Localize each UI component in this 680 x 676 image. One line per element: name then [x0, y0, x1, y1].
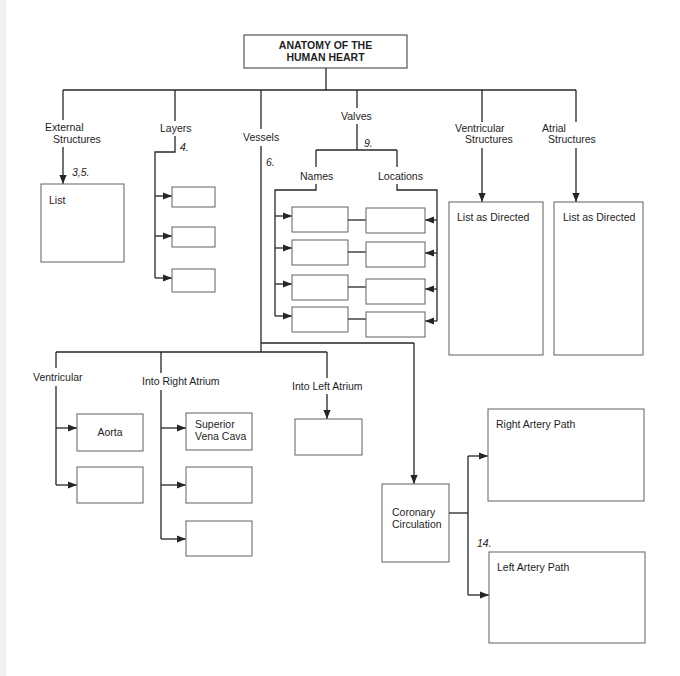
atrial-structures-box-label: List as Directed — [563, 211, 636, 223]
title-node: ANATOMY OF THE HUMAN HEART — [244, 35, 407, 68]
valve-location-box-1[interactable] — [366, 208, 425, 233]
valve-location-box-4[interactable] — [366, 312, 425, 337]
into-left-atrium-label: Into Left Atrium — [292, 380, 363, 392]
valves-label: Valves — [341, 110, 372, 122]
step-number: 9. — [364, 137, 373, 149]
atrial-structures-label-2: Structures — [548, 133, 596, 145]
right-atrium-vessel-box-3[interactable] — [186, 521, 252, 556]
layers-label: Layers — [160, 122, 192, 134]
ventricular-structures-box-label: List as Directed — [457, 211, 530, 223]
title-line-2: HUMAN HEART — [286, 51, 365, 63]
into-right-atrium-label: Into Right Atrium — [142, 375, 220, 387]
vessel-group-into-left-atrium: Into Left Atrium — [292, 352, 363, 455]
aorta-label: Aorta — [97, 426, 122, 438]
valve-name-box-1[interactable] — [292, 207, 348, 232]
step-number: 14. — [477, 537, 492, 549]
title-line-1: ANATOMY OF THE — [279, 39, 372, 51]
external-list-label: List — [49, 194, 65, 206]
step-number: 4. — [180, 141, 189, 153]
left-atrium-vessel-box[interactable] — [295, 419, 362, 455]
vessel-group-ventricular: Ventricular Aorta — [33, 352, 143, 503]
ventricular-structures-box[interactable] — [449, 202, 543, 355]
branch-external-structures: External Structures 3,5. List — [41, 90, 124, 262]
valve-name-box-2[interactable] — [292, 240, 348, 265]
vessels-label: Vessels — [243, 131, 279, 143]
external-label-1: External — [45, 121, 84, 133]
right-artery-path-label: Right Artery Path — [496, 418, 576, 430]
valve-names-label: Names — [300, 170, 333, 182]
ventricular-structures-label-2: Structures — [465, 133, 513, 145]
valve-location-box-3[interactable] — [366, 279, 425, 304]
layer-box-3[interactable] — [172, 269, 215, 292]
valve-locations-label: Locations — [378, 170, 423, 182]
valve-name-box-3[interactable] — [292, 275, 348, 300]
superior-vena-cava-label-1: Superior — [195, 418, 235, 430]
vessel-group-into-right-atrium: Into Right Atrium Superior Vena Cava — [142, 352, 252, 556]
branch-vessels: Vessels 6. — [243, 90, 279, 352]
step-number: 3,5. — [72, 166, 90, 178]
ventricular-label: Ventricular — [33, 371, 83, 383]
valve-name-box-4[interactable] — [292, 307, 348, 332]
left-artery-path-label: Left Artery Path — [497, 561, 570, 573]
right-atrium-vessel-box-2[interactable] — [186, 467, 252, 503]
branch-atrial-structures: Atrial Structures List as Directed — [542, 90, 643, 355]
valve-location-box-2[interactable] — [366, 242, 425, 267]
vessel-group-coronary: Coronary Circulation 14. Right Artery Pa… — [382, 343, 645, 643]
branch-layers: Layers 4. — [155, 90, 215, 292]
atrial-structures-box[interactable] — [554, 202, 643, 355]
superior-vena-cava-label-2: Vena Cava — [195, 430, 247, 442]
heart-anatomy-diagram: ANATOMY OF THE HUMAN HEART External Stru… — [0, 0, 680, 676]
coronary-label-2: Circulation — [392, 518, 442, 530]
branch-valves: Valves 9. Names Locations — [275, 90, 437, 337]
coronary-label-1: Coronary — [392, 506, 436, 518]
layer-box-2[interactable] — [172, 227, 215, 247]
external-label-2: Structures — [53, 133, 101, 145]
layer-box-1[interactable] — [172, 187, 215, 207]
step-number: 6. — [266, 156, 275, 168]
branch-ventricular-structures: Ventricular Structures List as Directed — [449, 90, 543, 355]
ventricular-vessel-box-2[interactable] — [77, 467, 143, 503]
